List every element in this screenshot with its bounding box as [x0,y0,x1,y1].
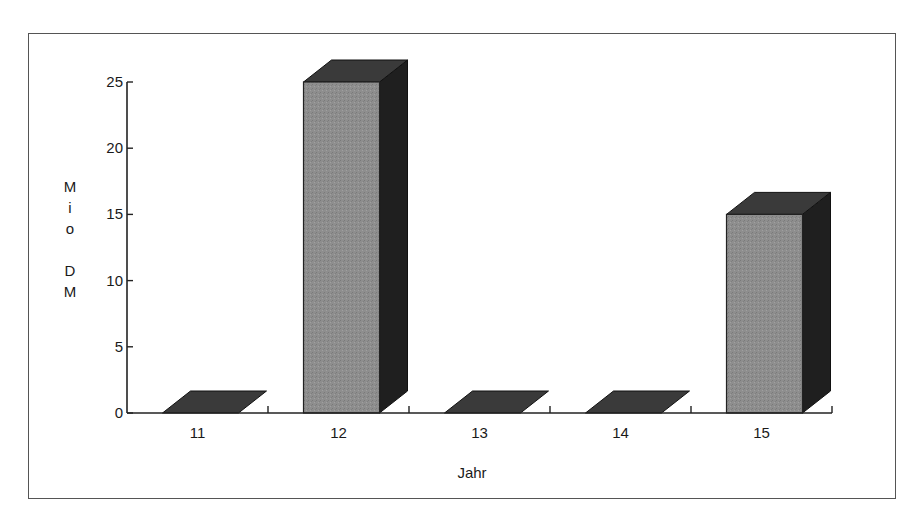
bar-zero-slab [445,391,549,413]
bar-zero-slab [586,391,690,413]
bar-15 [727,192,831,413]
y-axis-title-letter: M [64,283,77,300]
bar-12 [304,60,408,413]
bar-14 [586,391,690,413]
bar-zero-slab [163,391,267,413]
bar-11 [163,391,267,413]
bar-chart: 0510152025 1112131415 MioDM Jahr [0,0,922,529]
y-tick-label: 0 [115,404,123,421]
bar-side-face [380,60,408,413]
bar-front-face [727,214,803,413]
x-tick-label: 13 [471,424,488,441]
bar-13 [445,391,549,413]
y-tick-label: 15 [106,205,123,222]
bar-side-face [803,192,831,413]
y-axis-ticks: 0510152025 [106,73,133,421]
x-tick-label: 14 [612,424,629,441]
y-axis-title-letter: M [64,178,77,195]
x-tick-label: 12 [330,424,347,441]
y-tick-label: 20 [106,139,123,156]
y-axis-title: MioDM [64,178,77,300]
y-tick-label: 25 [106,73,123,90]
y-tick-label: 10 [106,272,123,289]
x-tick-label: 15 [753,424,770,441]
y-tick-label: 5 [115,338,123,355]
bars-group [163,60,831,413]
x-axis-title: Jahr [457,464,486,481]
y-axis-title-letter: o [66,220,74,237]
x-tick-label: 11 [190,424,206,441]
bar-front-face [304,82,380,413]
y-axis-title-letter: D [65,262,76,279]
y-axis-title-letter: i [68,199,71,216]
